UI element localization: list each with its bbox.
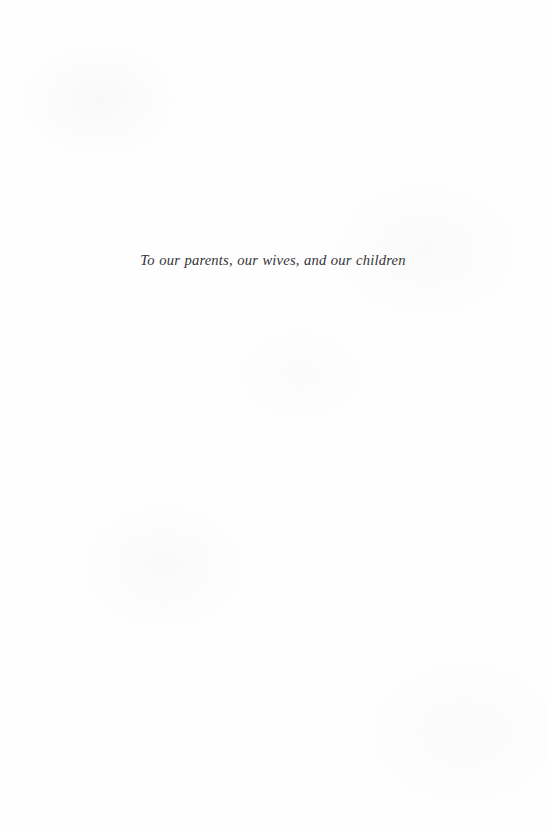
dedication-block: To our parents, our wives, and our child…	[0, 251, 546, 269]
dedication-text: To our parents, our wives, and our child…	[140, 251, 405, 269]
page-surface: To our parents, our wives, and our child…	[0, 0, 546, 833]
